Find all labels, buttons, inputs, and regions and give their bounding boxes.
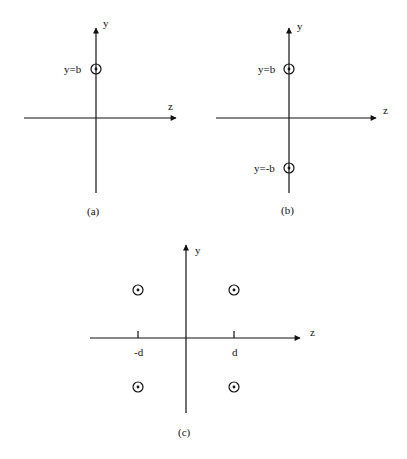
point-label: y=b — [258, 63, 275, 75]
panel-caption: (b) — [281, 204, 294, 216]
z-axis-label: z — [383, 104, 388, 116]
z-axis-label: z — [310, 326, 315, 338]
z-axis-label: z — [168, 100, 173, 112]
out-of-page-icon — [133, 285, 143, 295]
out-of-page-icon — [229, 382, 239, 392]
panel-c — [90, 245, 300, 413]
point-label: y=-b — [254, 162, 275, 174]
panel-a — [24, 28, 176, 193]
diagram-canvas — [0, 0, 407, 459]
panel-caption: (a) — [87, 205, 99, 217]
y-axis-label: y — [103, 17, 109, 29]
point-label: y=b — [64, 63, 81, 75]
tick-label: d — [232, 346, 238, 358]
panel-caption: (c) — [178, 426, 190, 438]
tick-label: -d — [134, 346, 143, 358]
out-of-page-icon — [133, 382, 143, 392]
y-axis-label: y — [297, 20, 303, 32]
panel-b — [216, 28, 376, 193]
out-of-page-icon — [229, 285, 239, 295]
y-axis-label: y — [195, 244, 201, 256]
